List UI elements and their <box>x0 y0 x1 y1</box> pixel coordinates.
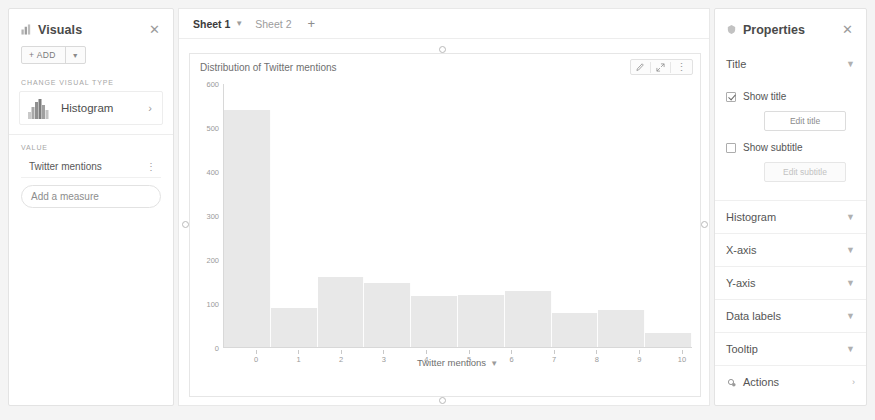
chevron-right-icon[interactable]: › <box>148 102 154 114</box>
show-subtitle-row[interactable]: Show subtitle <box>726 137 855 158</box>
resize-handle-bottom[interactable] <box>439 397 446 404</box>
add-visual-row: + ADD ▼ <box>9 46 173 70</box>
section-actions[interactable]: Actions › <box>715 365 866 398</box>
show-subtitle-checkbox[interactable] <box>726 143 736 153</box>
show-title-checkbox[interactable] <box>726 92 736 102</box>
histogram-bar[interactable] <box>505 291 552 347</box>
section-x-axis-label: X-axis <box>726 244 846 256</box>
close-icon[interactable]: ✕ <box>839 21 856 38</box>
visuals-panel-header: Visuals ✕ <box>9 9 173 46</box>
x-axis-title-label: Twitter mentions <box>417 357 486 368</box>
y-axis-labels: 0100200300400500600 <box>190 76 222 398</box>
tab-sheet-2[interactable]: Sheet 2 <box>249 9 297 38</box>
visual-type-card[interactable]: Histogram › <box>19 91 163 125</box>
chevron-down-icon[interactable]: ▼ <box>846 278 855 288</box>
x-axis: 012345678910 Twitter mentions▼ <box>223 350 692 372</box>
x-axis-tick <box>639 350 640 354</box>
properties-panel-header: Properties ✕ <box>715 9 866 48</box>
visuals-panel: Visuals ✕ + ADD ▼ CHANGE VISUAL TYPE <box>8 8 174 406</box>
actions-icon <box>726 377 736 387</box>
tab-sheet-1[interactable]: Sheet 1 ▼ <box>187 9 249 38</box>
x-axis-tick <box>426 350 427 354</box>
histogram-chart: 0100200300400500600 012345678910 Twitter… <box>190 76 702 398</box>
histogram-thumbnail-icon <box>26 96 52 120</box>
chevron-down-icon[interactable]: ▼ <box>846 311 855 321</box>
histogram-bar[interactable] <box>645 333 692 347</box>
properties-panel: Properties ✕ Title ▼ Show title Edit tit… <box>714 8 867 406</box>
kebab-menu-icon[interactable]: ⋮ <box>671 60 692 74</box>
x-axis-title[interactable]: Twitter mentions▼ <box>223 357 692 368</box>
show-title-row[interactable]: Show title <box>726 86 855 107</box>
histogram-bar[interactable] <box>318 277 365 347</box>
visuals-icon <box>21 24 32 35</box>
field-name: Twitter mentions <box>29 161 143 172</box>
histogram-bar[interactable] <box>598 310 645 347</box>
analytics-visual-editor: Visuals ✕ + ADD ▼ CHANGE VISUAL TYPE <box>0 0 875 420</box>
section-title[interactable]: Title ▼ <box>715 48 866 80</box>
edit-subtitle-button[interactable]: Edit subtitle <box>764 162 846 182</box>
field-row[interactable]: Twitter mentions ⋮ <box>21 156 161 178</box>
visual-container: Distribution of Twitter mentions ⋮ 01002… <box>185 49 705 401</box>
edit-pencil-icon[interactable] <box>631 60 650 74</box>
resize-handle-left[interactable] <box>182 221 189 228</box>
y-axis-tick-label: 0 <box>215 344 219 353</box>
title-section-body: Show title Edit title Show subtitle Edit… <box>715 80 866 200</box>
y-axis-tick-label: 300 <box>206 212 219 221</box>
y-axis-tick-label: 100 <box>206 300 219 309</box>
x-axis-tick <box>554 350 555 354</box>
section-data-labels[interactable]: Data labels ▼ <box>715 299 866 332</box>
close-icon[interactable]: ✕ <box>146 21 163 38</box>
histogram-bar[interactable] <box>458 295 505 347</box>
x-axis-tick <box>596 350 597 354</box>
section-title-label: Title <box>726 58 846 70</box>
chevron-down-icon[interactable]: ▼ <box>235 19 243 28</box>
x-axis-tick <box>341 350 342 354</box>
maximize-icon[interactable] <box>651 60 670 74</box>
add-visual-button[interactable]: + ADD <box>22 47 66 63</box>
add-measure-input[interactable]: Add a measure <box>21 185 161 208</box>
sheet-area: Sheet 1 ▼ Sheet 2 + Distribution of Twit… <box>178 8 710 406</box>
chevron-down-icon[interactable]: ▼ <box>490 359 498 368</box>
y-axis-tick-label: 400 <box>206 168 219 177</box>
visual-box: Distribution of Twitter mentions ⋮ 01002… <box>189 53 701 397</box>
properties-icon <box>726 24 737 35</box>
histogram-bar[interactable] <box>364 283 411 347</box>
chevron-right-icon[interactable]: › <box>852 377 855 387</box>
section-tooltip[interactable]: Tooltip ▼ <box>715 332 866 365</box>
section-actions-label: Actions <box>743 376 852 388</box>
bars-group <box>224 84 692 347</box>
show-subtitle-label: Show subtitle <box>743 142 802 153</box>
tab-sheet-2-label: Sheet 2 <box>255 18 291 30</box>
visual-type-name: Histogram <box>52 102 148 114</box>
resize-handle-top[interactable] <box>439 46 446 53</box>
chevron-down-icon[interactable]: ▼ <box>846 344 855 354</box>
chevron-down-icon[interactable]: ▼ <box>66 47 85 63</box>
histogram-bar[interactable] <box>411 296 458 347</box>
add-sheet-button[interactable]: + <box>297 17 325 30</box>
visuals-panel-title: Visuals <box>38 23 146 37</box>
y-axis-tick-label: 600 <box>206 80 219 89</box>
x-axis-tick <box>383 350 384 354</box>
section-x-axis[interactable]: X-axis ▼ <box>715 233 866 266</box>
section-histogram[interactable]: Histogram ▼ <box>715 200 866 233</box>
sheet-tabbar: Sheet 1 ▼ Sheet 2 + <box>179 9 709 39</box>
y-axis-tick-label: 500 <box>206 124 219 133</box>
histogram-bar[interactable] <box>271 308 318 347</box>
add-visual-button-group: + ADD ▼ <box>21 46 86 64</box>
change-visual-type-label: CHANGE VISUAL TYPE <box>9 70 173 91</box>
kebab-menu-icon[interactable]: ⋮ <box>143 163 159 171</box>
visual-title: Distribution of Twitter mentions <box>200 62 337 73</box>
section-y-axis[interactable]: Y-axis ▼ <box>715 266 866 299</box>
histogram-bar[interactable] <box>552 313 599 347</box>
chevron-down-icon[interactable]: ▼ <box>846 245 855 255</box>
x-axis-tick <box>682 350 683 354</box>
chevron-up-icon[interactable]: ▼ <box>846 59 855 69</box>
section-data-labels-label: Data labels <box>726 310 846 322</box>
chevron-down-icon[interactable]: ▼ <box>846 212 855 222</box>
histogram-bar[interactable] <box>224 110 271 347</box>
resize-handle-right[interactable] <box>701 221 708 228</box>
edit-title-button[interactable]: Edit title <box>764 111 846 131</box>
x-axis-tick <box>469 350 470 354</box>
plot-area <box>223 84 692 348</box>
y-axis-tick-label: 200 <box>206 256 219 265</box>
